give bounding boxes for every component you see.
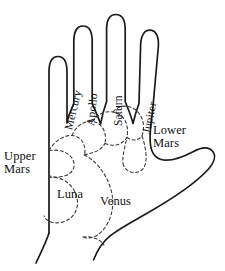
mount-label-venus: Venus [100,195,131,208]
wrist-left-line [36,233,49,263]
palm-diagram: Mercury Apollo Saturn Jupiter Upper Mars… [0,0,225,271]
mount-label-lower-mars: Lower Mars [153,124,186,151]
mount-venus-upper-divider [84,144,105,156]
finger-label-saturn: Saturn [112,95,124,126]
mount-lower-mars-boundary [124,136,147,173]
hand-illustration [0,0,225,271]
mount-label-luna: Luna [57,188,83,201]
mount-boundaries-group [44,106,146,245]
plain-of-mars-boundary [105,138,127,146]
mount-mercury-boundary [49,135,85,155]
hand-outline-path [49,15,214,260]
mount-label-upper-mars: Upper Mars [4,150,36,177]
plain-of-mars-boundary-right [127,136,142,140]
mount-upper-mars-boundary [49,150,74,177]
hand-outline-group [36,15,214,264]
